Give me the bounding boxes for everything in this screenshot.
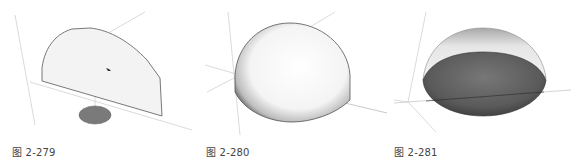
axis-line [310,12,335,27]
axis-line [345,103,387,113]
axis-line [408,102,436,132]
figure-281: 图 2-281 [386,0,586,167]
axis-line [15,15,35,125]
figure-280: 图 2-280 [195,0,390,167]
axis-line [408,12,426,102]
figure-caption: 图 2-280 [206,144,250,159]
figure-279: 图 2-279 [0,0,195,167]
hemisphere-solid [235,23,350,122]
path-circle [79,106,111,124]
hemisphere-underside-drawing [386,0,586,167]
axis-line [110,12,145,32]
hemisphere-drawing [195,0,390,167]
figure-caption: 图 2-281 [394,144,438,159]
half-disk-drawing [0,0,195,167]
axis-line [394,100,408,102]
figure-caption: 图 2-279 [12,144,56,159]
hemisphere-base-face [423,52,546,116]
semicircle-face [42,28,162,116]
